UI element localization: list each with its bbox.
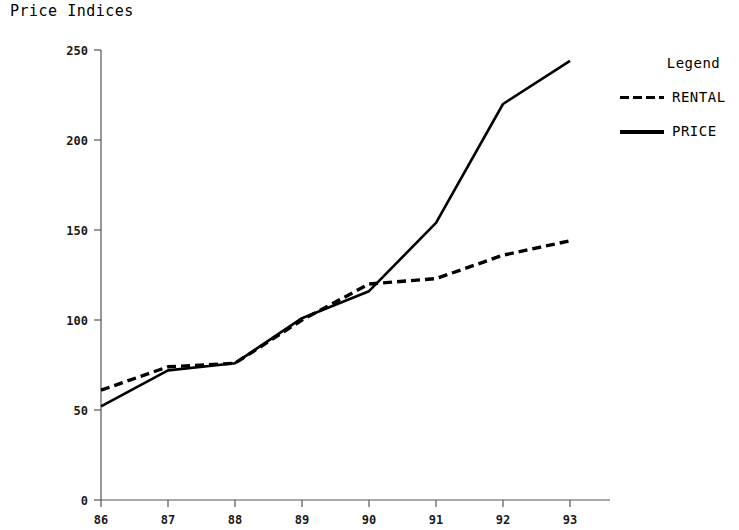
x-tick-label: 93 bbox=[563, 513, 577, 527]
legend: Legend RENTAL PRICE bbox=[620, 55, 739, 139]
legend-swatch-dashed-icon bbox=[620, 90, 664, 104]
y-axis: 050100150200250 bbox=[66, 44, 101, 508]
x-tick-label: 92 bbox=[496, 513, 510, 527]
price-indices-chart: Price Indices 050100150200250 8687888990… bbox=[0, 0, 739, 530]
y-tick-label: 150 bbox=[66, 224, 88, 238]
y-tick-label: 200 bbox=[66, 134, 88, 148]
x-tick-label: 88 bbox=[228, 513, 242, 527]
x-tick-label: 86 bbox=[94, 513, 108, 527]
legend-swatch-solid-icon bbox=[620, 124, 664, 138]
y-tick-label: 250 bbox=[66, 44, 88, 58]
legend-label-price: PRICE bbox=[672, 123, 717, 139]
y-tick-label: 50 bbox=[74, 404, 88, 418]
legend-title: Legend bbox=[620, 55, 739, 71]
legend-label-rental: RENTAL bbox=[672, 89, 726, 105]
legend-item-price: PRICE bbox=[620, 123, 739, 139]
series-line-price bbox=[101, 61, 570, 407]
x-tick-label: 89 bbox=[295, 513, 309, 527]
series-line-rental bbox=[101, 241, 570, 390]
x-tick-label: 91 bbox=[429, 513, 443, 527]
x-tick-label: 87 bbox=[161, 513, 175, 527]
x-axis: 8687888990919293 bbox=[94, 500, 610, 527]
y-tick-label: 0 bbox=[81, 494, 88, 508]
x-tick-label: 90 bbox=[362, 513, 376, 527]
data-series-group bbox=[101, 61, 570, 407]
legend-item-rental: RENTAL bbox=[620, 89, 739, 105]
y-tick-label: 100 bbox=[66, 314, 88, 328]
